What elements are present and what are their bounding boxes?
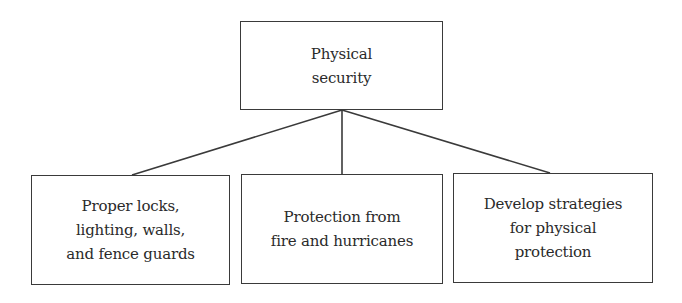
- child-node-strategies: Develop strategies for physical protecti…: [453, 173, 653, 283]
- child-node-label: Protection from fire and hurricanes: [271, 205, 413, 253]
- child-node-label: Proper locks, lighting, walls, and fence…: [66, 194, 195, 266]
- edge-root-to-left: [132, 110, 342, 175]
- child-node-fire-hurricanes: Protection from fire and hurricanes: [241, 174, 443, 284]
- root-node-physical-security: Physical security: [240, 21, 443, 110]
- edge-root-to-right: [342, 110, 550, 173]
- child-node-label: Develop strategies for physical protecti…: [484, 192, 623, 264]
- child-node-locks-lighting: Proper locks, lighting, walls, and fence…: [31, 175, 230, 285]
- root-node-label: Physical security: [311, 42, 372, 90]
